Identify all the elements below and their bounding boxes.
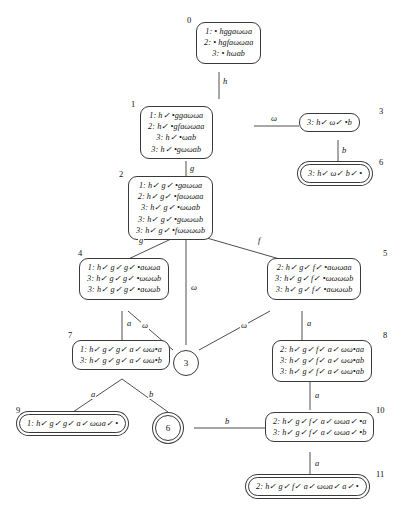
edge-5-to-ref3 xyxy=(199,311,270,350)
edge-label-3-6: b xyxy=(341,145,347,155)
node-8-line-2: 3: h✓ g✓ f✓ a✓ ωω•ab xyxy=(280,366,364,377)
node-2-line-1: 2: h✓ g✓ •faωωaa xyxy=(136,191,205,202)
node-7-line-1: 3: h✓ g✓ g✓ a✓ ωω•b xyxy=(80,355,162,366)
node-number-0: 0 xyxy=(187,15,191,25)
node-4-line-1: 3: h✓ g✓ g✓ •ωωωb xyxy=(87,273,161,284)
node-2-line-4: 3: h✓ g✓ •fωωωωb xyxy=(136,225,205,236)
edge-label-1-3: ω xyxy=(270,113,278,123)
circle-ref-6[interactable]: 6 xyxy=(155,415,181,441)
node-1-line-3: 3: h✓ •gωωab xyxy=(148,144,205,155)
node-0-line-1: 2: • hgfaωωaa xyxy=(204,37,253,48)
edge-7-to-9 xyxy=(73,379,122,412)
node-7-line-0: 1: h✓ g✓ g✓ a✓ ωω•a xyxy=(80,344,162,355)
edge-label-4-ref3: ω xyxy=(141,320,149,330)
edge-label-5-ref3: ω xyxy=(240,320,248,330)
node-9-line-0: 1: h✓ g✓ g✓ a✓ ωωa✓ • xyxy=(27,418,118,429)
node-number-9: 9 xyxy=(16,405,20,415)
edge-label-7-ref6: b xyxy=(148,389,154,399)
node-number-3: 3 xyxy=(379,106,383,116)
node-2[interactable]: 1: h✓ g✓ •gaωωa 2: h✓ g✓ •faωωaa 3: h✓ g… xyxy=(128,176,213,240)
circle-ref-3[interactable]: 3 xyxy=(173,350,199,376)
edge-7-to-ref6 xyxy=(122,379,168,412)
node-number-11: 11 xyxy=(376,469,384,479)
node-3-line-0: 3: h✓ ω✓ •b xyxy=(307,117,352,128)
node-2-line-3: 3: h✓ g✓ •gωωωb xyxy=(136,214,205,225)
node-number-2: 2 xyxy=(119,169,123,179)
node-5-line-2: 3: h✓ g✓ f✓ •aωωωb xyxy=(275,284,353,295)
node-1[interactable]: 1: h✓ •ggaωωa 2: h✓ •gfaωωaa 3: h✓ •ωab … xyxy=(140,106,213,159)
edge-label-7-9: a xyxy=(90,389,96,399)
node-6-line-0: 3: h✓ ω✓ b✓ • xyxy=(308,168,362,179)
node-5-line-1: 3: h✓ g✓ f✓ •ωωωωb xyxy=(275,273,353,284)
node-number-7: 7 xyxy=(68,330,72,340)
node-9[interactable]: 1: h✓ g✓ g✓ a✓ ωωa✓ • xyxy=(19,414,126,433)
node-4-line-2: 3: h✓ g✓ g✓ •aωωb xyxy=(87,284,161,295)
node-5[interactable]: 2: h✓ g✓ f✓ •aωωaa 3: h✓ g✓ f✓ •ωωωωb 3:… xyxy=(267,258,361,300)
node-3[interactable]: 3: h✓ ω✓ •b xyxy=(299,113,360,132)
edge-label-2-5: f xyxy=(257,235,261,245)
node-0-line-2: 3: • hωab xyxy=(204,48,253,59)
node-6[interactable]: 3: h✓ ω✓ b✓ • xyxy=(300,164,370,183)
edge-label-1-2: g xyxy=(189,163,195,173)
node-5-line-0: 2: h✓ g✓ f✓ •aωωaa xyxy=(275,262,353,273)
node-10-line-1: 3: h✓ g✓ f✓ a✓ ωωa✓ •b xyxy=(273,427,366,438)
tableau-tree-diagram: 0 1: • hggaωωa 2: • hgfaωωaa 3: • hωab h… xyxy=(0,0,403,514)
node-1-line-0: 1: h✓ •ggaωωa xyxy=(148,110,205,121)
node-2-line-0: 1: h✓ g✓ •gaωωa xyxy=(136,180,205,191)
edge-label-4-7: a xyxy=(126,318,132,328)
node-11[interactable]: 2: h✓ g✓ f✓ a✓ ωωa✓ a✓ • xyxy=(248,477,367,496)
node-number-6: 6 xyxy=(379,157,383,167)
edge-label-2-4: g xyxy=(138,235,144,245)
node-7[interactable]: 1: h✓ g✓ g✓ a✓ ωω•a 3: h✓ g✓ g✓ a✓ ωω•b xyxy=(72,340,170,370)
node-1-line-1: 2: h✓ •gfaωωaa xyxy=(148,121,205,132)
edge-label-8-10: a xyxy=(314,390,320,400)
edge-label-5-8: a xyxy=(306,318,312,328)
edge-label-2-ref3: ω xyxy=(190,282,198,292)
node-number-5: 5 xyxy=(383,248,387,258)
node-0[interactable]: 1: • hggaωωa 2: • hgfaωωaa 3: • hωab xyxy=(196,22,261,64)
node-4[interactable]: 1: h✓ g✓ g✓ •aωωa 3: h✓ g✓ g✓ •ωωωb 3: h… xyxy=(79,258,169,300)
node-8[interactable]: 2: h✓ g✓ f✓ a✓ ωω•aa 3: h✓ g✓ f✓ a✓ ωω•a… xyxy=(272,340,372,382)
node-2-line-2: 3: h✓ g✓ •ωωab xyxy=(136,202,205,213)
node-number-10: 10 xyxy=(376,405,385,415)
node-8-line-0: 2: h✓ g✓ f✓ a✓ ωω•aa xyxy=(280,344,364,355)
edge-label-10-ref6: b xyxy=(224,416,230,426)
edge-label-0-1: h xyxy=(222,76,228,86)
node-number-4: 4 xyxy=(78,248,82,258)
node-number-1: 1 xyxy=(131,99,135,109)
node-10-line-0: 2: h✓ g✓ f✓ a✓ ωωa✓ •a xyxy=(273,416,366,427)
node-10[interactable]: 2: h✓ g✓ f✓ a✓ ωωa✓ •a 3: h✓ g✓ f✓ a✓ ωω… xyxy=(265,412,374,442)
edge-label-10-11: a xyxy=(314,458,320,468)
node-1-line-2: 3: h✓ •ωab xyxy=(148,132,205,143)
node-number-8: 8 xyxy=(383,330,387,340)
node-8-line-1: 3: h✓ g✓ f✓ a✓ ωω•ab xyxy=(280,355,364,366)
node-4-line-0: 1: h✓ g✓ g✓ •aωωa xyxy=(87,262,161,273)
node-11-line-0: 2: h✓ g✓ f✓ a✓ ωωa✓ a✓ • xyxy=(256,481,359,492)
node-0-line-0: 1: • hggaωωa xyxy=(204,26,253,37)
